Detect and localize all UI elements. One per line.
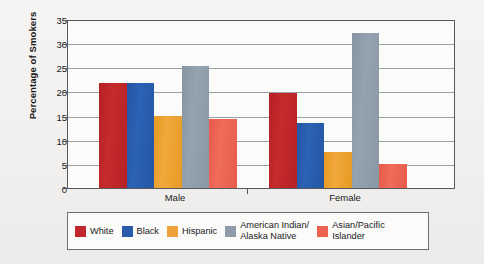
bar-female-black: [297, 123, 325, 188]
legend-swatch-asian-pacific-islander-icon: [317, 226, 328, 237]
legend-item-black[interactable]: Black: [122, 226, 159, 237]
chart-figure: Percentage of Smokers 35 30 25 20 15 10 …: [0, 0, 484, 264]
legend-item-hispanic[interactable]: Hispanic: [167, 226, 217, 237]
bar-female-american-indian-alaska-native: [352, 33, 380, 188]
bar-female-hispanic: [324, 152, 352, 188]
legend-label: Asian/Pacific Islander: [332, 220, 385, 242]
bar-series-layer: [68, 21, 454, 188]
legend-item-american-indian-alaska-native[interactable]: American Indian/ Alaska Native: [225, 220, 309, 242]
plot-area: [67, 20, 455, 189]
legend-item-white[interactable]: White: [75, 226, 114, 237]
legend-swatch-american-indian-alaska-native-icon: [225, 226, 236, 237]
legend-swatch-black-icon: [122, 226, 133, 237]
bar-male-hispanic: [154, 116, 182, 188]
group-separator-tick: [247, 189, 248, 194]
legend-label: Hispanic: [182, 226, 217, 237]
legend-item-asian-pacific-islander[interactable]: Asian/Pacific Islander: [317, 220, 385, 242]
legend: WhiteBlackHispanicAmerican Indian/ Alask…: [67, 212, 429, 250]
bar-female-asian-pacific-islander: [379, 164, 407, 188]
bar-male-asian-pacific-islander: [209, 119, 237, 188]
legend-swatch-white-icon: [75, 226, 86, 237]
group-label-female: Female: [300, 192, 390, 203]
bar-male-american-indian-alaska-native: [182, 66, 210, 188]
bar-male-white: [99, 83, 127, 188]
bar-male-black: [127, 83, 155, 188]
legend-label: American Indian/ Alaska Native: [240, 220, 309, 242]
y-tick-0: 0: [41, 184, 67, 195]
bar-female-white: [269, 93, 297, 188]
y-axis: 35 30 25 20 15 10 5 0: [33, 20, 67, 189]
legend-label: Black: [137, 226, 159, 237]
legend-label: White: [90, 226, 114, 237]
legend-swatch-hispanic-icon: [167, 226, 178, 237]
group-label-male: Male: [130, 192, 220, 203]
